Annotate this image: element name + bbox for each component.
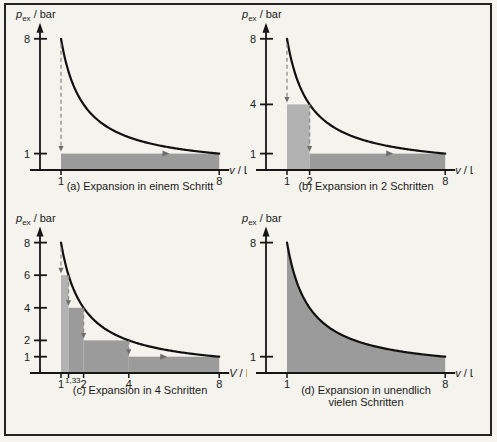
- down-arrow-icon: [58, 146, 63, 152]
- y-axis-arrow-icon: [37, 23, 44, 33]
- subplot-c-expansion-four-steps: 8642111,33248pex / barV / L(c) Expansion…: [0, 212, 247, 442]
- x-tick-label: 8: [442, 378, 448, 390]
- y-axis-label: pex / bar: [15, 212, 56, 227]
- expansion-step-area: [61, 154, 219, 170]
- y-axis-arrow-icon: [263, 23, 270, 33]
- y-axis-arrow-icon: [263, 227, 270, 237]
- subplot-b-expansion-two-steps: 841128pex / barv / L(b) Expansion in 2 S…: [226, 0, 473, 212]
- subplot-a-expansion-one-step: 8118pex / barv / L(a) Expansion in einem…: [0, 0, 247, 212]
- y-tick-label: 2: [24, 334, 30, 346]
- expansion-step-area: [69, 308, 84, 373]
- x-tick-label: 1: [58, 175, 64, 187]
- y-tick-label: 4: [24, 302, 30, 314]
- y-tick-label: 8: [250, 237, 256, 249]
- y-axis-arrow-icon: [37, 227, 44, 237]
- x-tick-label: 1: [284, 378, 290, 390]
- subplot-caption: (a) Expansion in einem Schritt: [67, 180, 214, 192]
- expansion-step-area: [129, 357, 219, 373]
- y-tick-label: 8: [24, 237, 30, 249]
- x-tick-label: 8: [442, 175, 448, 187]
- subplot-caption: vielen Schritten: [328, 396, 403, 408]
- y-tick-label: 1: [250, 148, 256, 160]
- expansion-step-area: [310, 154, 446, 170]
- expansion-step-area: [84, 340, 129, 373]
- pv-isotherm-curve: [61, 243, 219, 357]
- y-axis-label: pex / bar: [241, 212, 282, 227]
- subplot-caption: (b) Expansion in 2 Schritten: [298, 180, 433, 192]
- y-tick-label: 8: [24, 33, 30, 45]
- x-tick-label: 1: [284, 175, 290, 187]
- x-axis-label: v / L: [455, 367, 473, 379]
- expansion-step-area: [61, 275, 69, 373]
- x-tick-label: 1: [58, 378, 64, 390]
- y-axis-label: pex / bar: [241, 8, 282, 23]
- pv-isotherm-curve: [61, 39, 219, 154]
- x-tick-label: 8: [216, 175, 222, 187]
- y-tick-label: 1: [24, 148, 30, 160]
- x-axis-label: v / L: [455, 164, 473, 176]
- expansion-step-area: [287, 104, 310, 170]
- y-tick-label: 4: [250, 98, 256, 110]
- subplot-caption: (d) Expansion in unendlich: [301, 384, 431, 396]
- down-arrow-icon: [58, 268, 63, 274]
- y-tick-label: 1: [250, 351, 256, 363]
- pv-isotherm-curve: [287, 39, 445, 154]
- y-tick-label: 1: [24, 351, 30, 363]
- figure-page: 8118pex / barv / L(a) Expansion in einem…: [0, 0, 497, 442]
- subplot-caption: (c) Expansion in 4 Schritten: [73, 384, 208, 396]
- y-tick-label: 8: [250, 33, 256, 45]
- x-tick-label: 8: [216, 378, 222, 390]
- down-arrow-icon: [284, 97, 289, 103]
- subplot-d-expansion-infinite-steps: 8118pex / barv / L(d) Expansion in unend…: [226, 212, 473, 442]
- y-axis-label: pex / bar: [15, 8, 56, 23]
- y-tick-label: 6: [24, 269, 30, 281]
